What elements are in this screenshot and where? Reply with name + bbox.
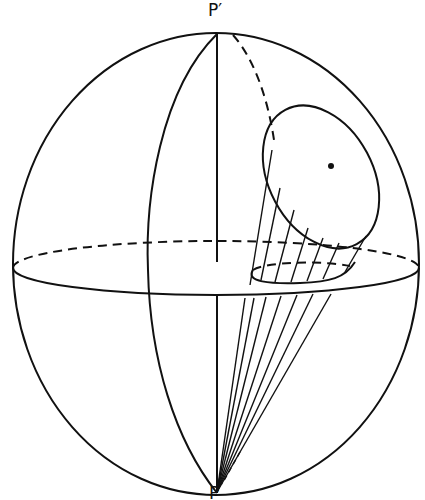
meridian-right-hidden xyxy=(233,35,274,140)
sphere-diagram xyxy=(0,0,425,500)
cap-center-point xyxy=(328,163,334,169)
projection-lines-from-P xyxy=(217,294,331,492)
pole-label-top: P′ xyxy=(208,2,222,19)
equator-front xyxy=(13,268,419,295)
meridian-left xyxy=(148,34,217,493)
pole-label-bottom: P xyxy=(209,485,219,500)
projected-circle-back xyxy=(253,263,350,270)
